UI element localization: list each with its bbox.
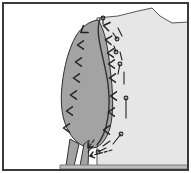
figure-panel — [0, 0, 191, 173]
diagram-canvas — [0, 0, 191, 173]
ground-baseline — [60, 165, 188, 169]
regions-layer — [60, 8, 188, 169]
